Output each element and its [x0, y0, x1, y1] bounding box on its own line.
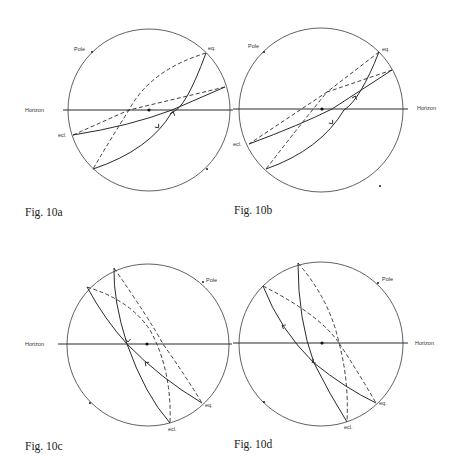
pole-tick-marker [377, 282, 379, 284]
equator-dashed-curve [114, 268, 202, 403]
figure-10d: Poleeq.ecl.Horizon [233, 262, 434, 430]
label-eq: eq. [208, 45, 216, 51]
figure-10c: Poleeq.ecl.Horizon [25, 264, 232, 432]
label-horizon: Horizon [25, 107, 44, 113]
center-dot [320, 107, 323, 110]
label-ecl: ecl. [168, 426, 177, 432]
figure-10a: Poleeq.ecl.Horizon [25, 29, 233, 191]
caption-fig-10b: Fig. 10b [234, 204, 272, 216]
pole-tick-marker [202, 281, 204, 283]
label-horizon: Horizon [25, 341, 44, 347]
direction-arrow-icon [170, 111, 176, 116]
center-dot [145, 342, 148, 345]
label-ecl: ecl. [233, 141, 242, 147]
ecliptic-solid-curve [249, 70, 392, 144]
label-eq: eq. [205, 402, 213, 408]
figure-page: Poleeq.ecl.HorizonPoleeq.ecl.HorizonPole… [0, 0, 466, 470]
opposite-pole-tick-marker [206, 168, 208, 170]
center-dot [147, 108, 150, 111]
equator-dashed-curve [249, 52, 379, 144]
figure-10b: Poleeq.ecl.Horizon [233, 28, 436, 192]
label-pole: Pole [382, 276, 393, 282]
label-ecl: ecl. [58, 132, 67, 138]
opposite-pole-tick-marker [263, 401, 265, 403]
label-pole: Pole [206, 277, 217, 283]
caption-fig-10a: Fig. 10a [25, 206, 63, 218]
label-pole: Pole [74, 46, 85, 52]
opposite-pole-tick-marker [379, 185, 381, 187]
label-eq: eq. [379, 400, 387, 406]
equator-dashed-curve [298, 263, 376, 403]
caption-fig-10c: Fig. 10c [25, 440, 63, 452]
label-horizon: Horizon [415, 340, 434, 346]
center-dot [320, 341, 323, 344]
caption-fig-10d: Fig. 10d [234, 438, 272, 450]
pole-tick-marker [91, 51, 93, 53]
opposite-pole-tick-marker [89, 402, 91, 404]
label-pole: Pole [248, 43, 259, 49]
ecliptic-solid-curve [263, 286, 376, 403]
equator-solid-curve [114, 268, 170, 423]
celestial-sphere-diagrams: Poleeq.ecl.HorizonPoleeq.ecl.HorizonPole… [0, 0, 466, 470]
ecliptic-dashed-curve [266, 70, 392, 169]
pole-tick-marker [263, 51, 265, 53]
label-eq: eq. [382, 46, 390, 52]
label-horizon: Horizon [417, 105, 436, 111]
label-ecl: ecl. [344, 424, 353, 430]
